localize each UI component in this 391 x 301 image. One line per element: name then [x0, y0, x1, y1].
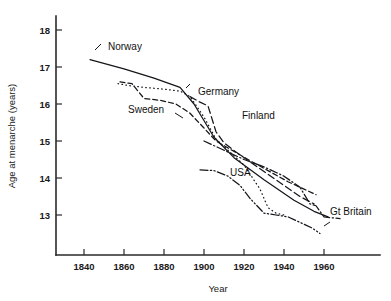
y-tick-label: 14 [39, 173, 50, 184]
y-axis-title: Age at menarche (years) [6, 84, 17, 189]
y-tick-label: 18 [39, 25, 50, 36]
x-axis-title: Year [208, 283, 227, 294]
y-tick-label: 13 [39, 210, 50, 221]
x-tick-label: 1860 [113, 261, 134, 272]
axis-group [56, 16, 380, 255]
label-leader-line [324, 222, 330, 226]
y-tick-label: 17 [39, 62, 50, 73]
x-tick-label: 1920 [233, 261, 254, 272]
y-tick-label: 15 [39, 136, 50, 147]
label-leader-line [175, 113, 183, 118]
series-line-gt-britain [204, 141, 340, 219]
label-leader-line [186, 84, 190, 88]
series-label-sweden: Sweden [128, 104, 164, 115]
x-tick-label: 1940 [273, 261, 294, 272]
chart-container: 131415161718 184018601880190019201940196… [0, 0, 391, 301]
series-label-gt-britain: Gt Britain [330, 206, 372, 217]
x-tick-label: 1960 [313, 261, 334, 272]
menarche-line-chart: 131415161718 184018601880190019201940196… [0, 0, 391, 301]
x-tick-label: 1840 [73, 261, 94, 272]
y-tick-group: 131415161718 [39, 25, 62, 221]
series-label-group: NorwayGermanySwedenFinlandUSAGt Britain [95, 41, 372, 226]
x-tick-group: 1840186018801900192019401960 [73, 249, 334, 272]
x-tick-label: 1880 [153, 261, 174, 272]
x-tick-label: 1900 [193, 261, 214, 272]
series-label-finland: Finland [242, 110, 275, 121]
series-line-norway [90, 60, 328, 217]
series-label-germany: Germany [198, 86, 239, 97]
series-label-usa: USA [230, 167, 251, 178]
series-line-usa [200, 170, 320, 234]
label-leader-line [95, 44, 101, 50]
y-tick-label: 16 [39, 99, 50, 110]
series-label-norway: Norway [108, 41, 142, 52]
